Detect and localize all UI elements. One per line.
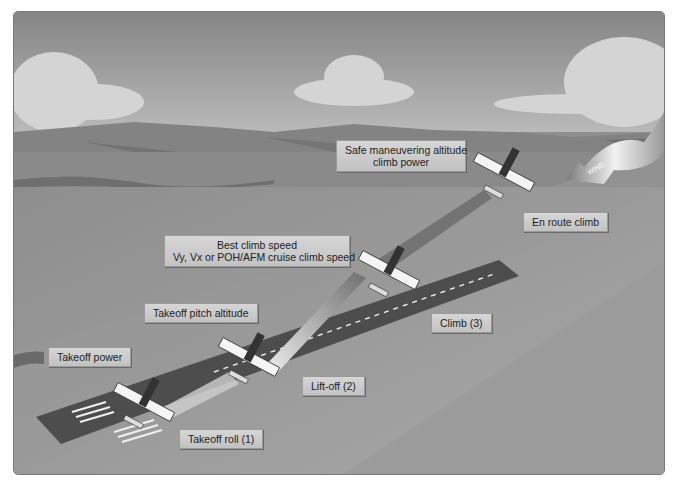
label-takeoff-power: Takeoff power [48,347,131,367]
label-takeoff-roll: Takeoff roll (1) [179,429,263,449]
label-safe-maneuvering: Safe maneuvering altitude climb power [336,140,466,172]
label-takeoff-pitch: Takeoff pitch altitude [144,303,258,323]
label-line: Vy, Vx or POH/AFM cruise climb speed [173,251,341,263]
label-line: climb power [345,156,457,168]
label-lift-off: Lift-off (2) [302,376,365,396]
label-climb: Climb (3) [431,313,492,333]
label-line: Safe maneuvering altitude [345,144,457,156]
diagram-frame: WIND Safe maneuvering altitude [13,11,665,475]
label-best-climb: Best climb speed Vy, Vx or POH/AFM cruis… [164,235,350,267]
label-en-route-climb: En route climb [523,212,608,232]
label-line: Best climb speed [173,239,341,251]
